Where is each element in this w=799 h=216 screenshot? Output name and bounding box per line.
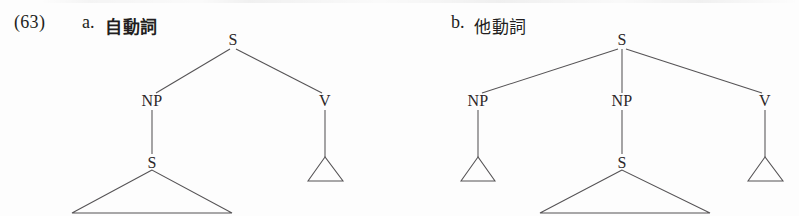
tree-b-node-v-right: V (759, 93, 771, 109)
triangle-a-v (308, 157, 343, 181)
edge-a-s-to-np (156, 49, 230, 93)
tree-a-node-v-right: V (319, 93, 331, 109)
edge-b-s-to-v (626, 49, 762, 93)
tree-a-node-embedded-s: S (147, 155, 156, 171)
tree-drawing-layer (0, 0, 799, 216)
triangle-b-v (748, 157, 783, 181)
tree-b-node-embedded-s: S (617, 155, 626, 171)
triangle-a-embedded-s (72, 170, 232, 213)
tree-b-node-np-left: NP (468, 93, 489, 109)
triangle-b-np-left (461, 157, 495, 181)
tree-b-node-root-s: S (617, 32, 626, 48)
tree-a-node-np-left: NP (142, 93, 163, 109)
tree-a-node-root-s: S (228, 32, 237, 48)
edge-b-s-to-np-left (482, 49, 618, 93)
tree-a-triangles (72, 157, 343, 213)
tree-a-edges (152, 49, 325, 157)
edge-a-s-to-v (236, 49, 322, 93)
figure-page: (63) a. 自動詞 b. 他動詞 (0, 0, 799, 216)
triangle-b-embedded-s (540, 170, 710, 213)
tree-b-node-np-middle: NP (612, 93, 633, 109)
